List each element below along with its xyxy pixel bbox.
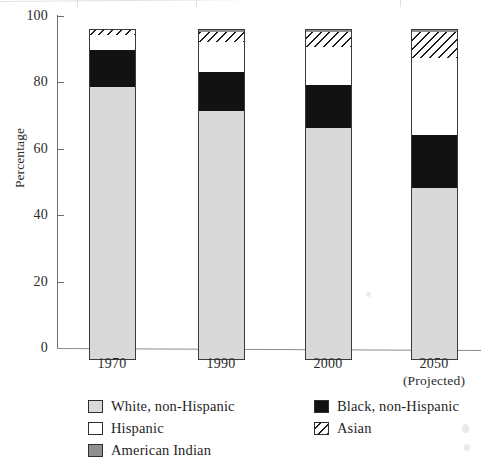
scan-speck — [462, 424, 469, 433]
x-label-sub: (Projected) — [379, 372, 488, 389]
chart-page: Percentage 100 80 60 40 20 0 1970 1990 — [0, 0, 488, 464]
bar-segment-american-indian[interactable] — [411, 29, 458, 32]
legend-label: Hispanic — [111, 420, 164, 436]
legend-swatch-asian-icon — [314, 422, 329, 435]
x-label-1970: 1970 — [57, 356, 167, 372]
y-axis-line — [57, 15, 58, 349]
x-label-2000: 2000 — [273, 356, 383, 372]
x-label-year: 1990 — [207, 356, 236, 371]
bar-1970[interactable] — [89, 12, 136, 360]
bar-segment-white-non-hispanic[interactable] — [305, 128, 352, 360]
bar-segment-black-non-hispanic[interactable] — [305, 85, 352, 128]
bar-segment-white-non-hispanic[interactable] — [198, 111, 245, 360]
x-label-2050: 2050 (Projected) — [379, 356, 488, 389]
legend-swatch-white-non-hispanic-icon — [88, 400, 103, 413]
y-tick-80 — [58, 82, 64, 83]
y-tick-60 — [58, 149, 64, 150]
legend-label: White, non-Hispanic — [111, 398, 235, 414]
y-tick-100 — [58, 16, 64, 17]
y-tick-label-0: 0 — [12, 341, 48, 355]
legend-item-asian[interactable]: Asian — [314, 420, 372, 436]
scan-speck — [366, 292, 371, 297]
legend: White, non-Hispanic Hispanic American In… — [0, 394, 488, 464]
y-axis-title: Percentage — [12, 110, 28, 206]
bar-segment-hispanic[interactable] — [89, 35, 136, 50]
legend-swatch-american-indian-icon — [88, 444, 103, 457]
bar-segment-asian[interactable] — [198, 32, 245, 42]
bar-segment-black-non-hispanic[interactable] — [198, 72, 245, 112]
bar-segment-asian[interactable] — [411, 32, 458, 59]
bar-segment-hispanic[interactable] — [411, 58, 458, 134]
x-label-year: 2050 — [420, 356, 449, 371]
bar-1990[interactable] — [198, 12, 245, 360]
legend-label: Black, non-Hispanic — [337, 398, 459, 414]
bar-segment-american-indian[interactable] — [89, 29, 136, 31]
bar-segment-white-non-hispanic[interactable] — [411, 188, 458, 360]
legend-swatch-hispanic-icon — [88, 422, 103, 435]
bar-2050[interactable] — [411, 12, 458, 360]
legend-swatch-black-non-hispanic-icon — [314, 400, 329, 413]
bar-segment-black-non-hispanic[interactable] — [89, 50, 136, 86]
y-tick-label-40: 40 — [12, 208, 48, 222]
x-label-year: 2000 — [314, 356, 343, 371]
y-tick-label-20: 20 — [12, 275, 48, 289]
y-tick-label-60: 60 — [12, 142, 48, 156]
x-label-year: 1970 — [98, 356, 127, 371]
bar-segment-hispanic[interactable] — [198, 42, 245, 72]
y-tick-40 — [58, 215, 64, 216]
y-tick-20 — [58, 282, 64, 283]
bar-segment-american-indian[interactable] — [198, 29, 245, 32]
bar-segment-asian[interactable] — [89, 30, 136, 35]
legend-item-white-non-hispanic[interactable]: White, non-Hispanic — [88, 398, 235, 414]
legend-item-hispanic[interactable]: Hispanic — [88, 420, 164, 436]
y-tick-label-80: 80 — [12, 75, 48, 89]
plot-area: Percentage 100 80 60 40 20 0 1970 1990 — [0, 0, 488, 360]
y-tick-label-100: 100 — [12, 9, 48, 23]
bar-segment-white-non-hispanic[interactable] — [89, 87, 136, 360]
bar-segment-american-indian[interactable] — [305, 29, 352, 32]
legend-label: American Indian — [111, 442, 211, 458]
bar-segment-black-non-hispanic[interactable] — [411, 135, 458, 188]
legend-item-american-indian[interactable]: American Indian — [88, 442, 211, 458]
legend-label: Asian — [337, 420, 372, 436]
x-label-1990: 1990 — [166, 356, 276, 372]
bar-2000[interactable] — [305, 12, 352, 360]
bar-segment-hispanic[interactable] — [305, 47, 352, 85]
legend-item-black-non-hispanic[interactable]: Black, non-Hispanic — [314, 398, 459, 414]
bar-segment-asian[interactable] — [305, 32, 352, 47]
scan-speck — [464, 444, 470, 451]
